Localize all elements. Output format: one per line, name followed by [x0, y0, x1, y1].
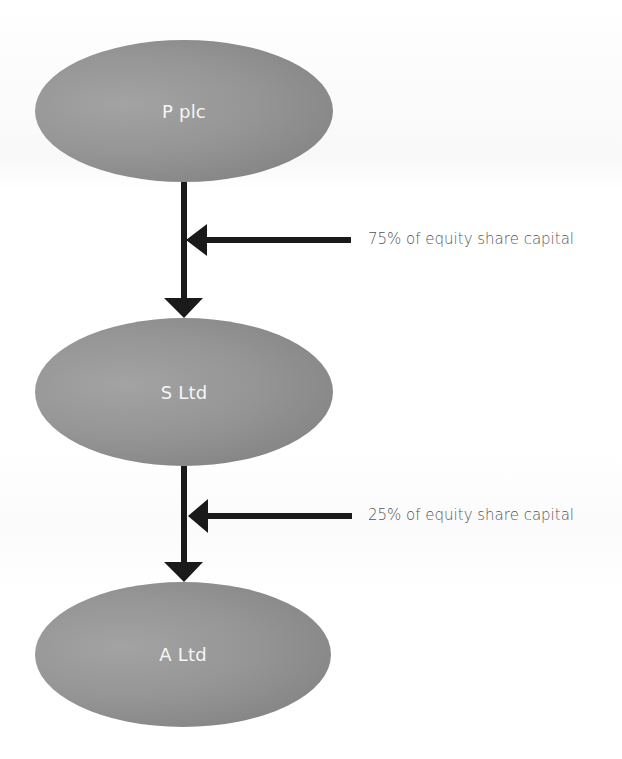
node-label-s-ltd: S Ltd — [161, 382, 208, 403]
node-label-a-ltd: A Ltd — [159, 644, 207, 665]
node-a-ltd: A Ltd — [35, 582, 331, 727]
edge-label-25: 25% of equity share capital — [368, 506, 574, 524]
arrow-s-to-a — [164, 466, 203, 582]
arrow-p-to-s — [164, 182, 203, 318]
pointer-arrow-75 — [186, 224, 351, 256]
node-p-plc: P plc — [35, 40, 333, 182]
edge-label-75: 75% of equity share capital — [368, 230, 574, 248]
node-label-p-plc: P plc — [162, 101, 206, 122]
node-s-ltd: S Ltd — [35, 318, 333, 466]
pointer-arrow-25 — [188, 499, 352, 533]
